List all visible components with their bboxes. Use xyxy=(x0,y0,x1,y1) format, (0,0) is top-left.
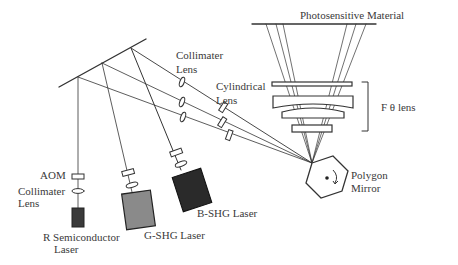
b-shg-laser-label: B-SHG Laser xyxy=(197,207,257,219)
f-theta-lens-element-3 xyxy=(282,108,344,118)
scan-beam xyxy=(312,24,347,163)
b-aom-icon xyxy=(170,148,183,157)
aom-icon xyxy=(72,174,84,179)
f-theta-lens-element-4 xyxy=(292,125,332,132)
g-shg-laser xyxy=(122,190,156,230)
collimater-lens-icon xyxy=(72,189,84,194)
reflected-beam-r xyxy=(78,77,312,163)
scan-beam xyxy=(266,24,312,163)
collimater-lens-left-label-line1: Collimater xyxy=(18,185,65,197)
cylindrical-lens-label-line1: Cylindrical xyxy=(216,80,266,92)
collimater-lens-icon xyxy=(179,112,187,123)
photosensitive-material-label: Photosensitive Material xyxy=(300,9,404,21)
scan-beam xyxy=(276,24,312,163)
g-collimater-lens-icon xyxy=(126,181,139,189)
collimater-lens-icon xyxy=(178,77,186,88)
g-aom-icon xyxy=(122,169,135,177)
b-collimater-lens-icon xyxy=(175,160,188,169)
r-laser-label-line2: Laser xyxy=(54,243,78,255)
optical-diagram xyxy=(0,0,458,265)
polygon-mirror-label-line1: Polygon xyxy=(351,169,388,181)
r-laser-label-line1: R Semiconductor xyxy=(43,231,120,243)
collimater-lens-icon xyxy=(178,97,186,108)
scan-beam xyxy=(312,24,366,163)
aom-label: AOM xyxy=(40,169,66,181)
r-semiconductor-laser xyxy=(72,208,84,227)
f-theta-lens-label: F θ lens xyxy=(381,101,416,113)
f-theta-bracket xyxy=(362,82,368,131)
f-theta-lens-element-1 xyxy=(272,82,352,86)
polygon-mirror-label-line2: Mirror xyxy=(351,182,380,194)
reflected-beam-g xyxy=(102,63,312,163)
g-shg-laser-label: G-SHG Laser xyxy=(144,229,205,241)
rotation-axis-icon xyxy=(325,176,329,180)
scan-beam xyxy=(312,24,356,163)
collimater-lens-label-line2: Lens xyxy=(176,63,197,75)
f-theta-lens-element-2 xyxy=(273,96,353,108)
b-shg-laser xyxy=(172,168,212,212)
cylindrical-lens-label-line2: Lens xyxy=(216,94,237,106)
scan-beam xyxy=(283,24,312,163)
collimater-lens-left-label-line2: Lens xyxy=(18,197,39,209)
polygon-mirror xyxy=(306,156,348,198)
collimater-lens-label-line1: Collimater xyxy=(176,49,223,61)
